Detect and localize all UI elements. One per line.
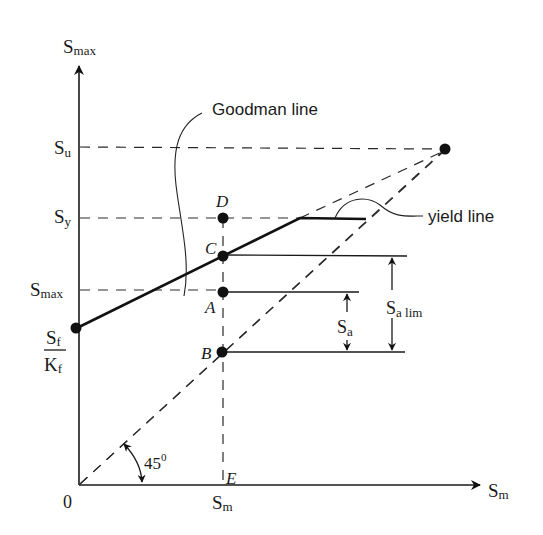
sa-lim-label: Sa lim xyxy=(386,298,422,320)
y-axis-label-sub: max xyxy=(74,43,97,58)
su-label-sub: u xyxy=(65,145,72,160)
point-d xyxy=(218,213,229,224)
point-c xyxy=(218,251,229,262)
smax-label: Smax xyxy=(30,279,63,301)
sy-label-sub: y xyxy=(65,214,72,229)
sm-tick-label-sub: m xyxy=(223,499,233,514)
sm-tick-label-main: S xyxy=(212,492,223,513)
goodman-line xyxy=(77,218,366,328)
angle-arc xyxy=(124,444,142,482)
point-sf-kf xyxy=(71,323,82,334)
point-su-intersection xyxy=(440,144,451,155)
goodman-diagram: Smax Sm 0 D C A B E Su Sy Smax S xyxy=(0,0,543,535)
sy-label: Sy xyxy=(54,206,72,229)
point-a xyxy=(218,287,229,298)
origin-label: 0 xyxy=(63,492,72,512)
label-e: E xyxy=(225,469,237,488)
sf-label-sub: f xyxy=(57,334,62,349)
smax-label-main: S xyxy=(30,279,41,300)
upper-diagonal-line xyxy=(300,151,444,218)
label-c: C xyxy=(205,239,217,258)
y-axis-label-main: S xyxy=(63,36,74,57)
sa-label-sub: a xyxy=(347,324,353,339)
kf-label-main: K xyxy=(44,354,58,375)
point-b xyxy=(217,347,228,358)
c-extension-line xyxy=(223,255,407,256)
su-dashed-line xyxy=(80,147,440,149)
sf-label: Sf xyxy=(46,327,62,349)
angle-label: 450 xyxy=(144,451,167,473)
x-axis-label-sub: m xyxy=(499,487,509,502)
axes xyxy=(79,66,480,485)
angle-value: 45 xyxy=(144,454,161,473)
x-axis-label: Sm xyxy=(488,480,509,502)
sa-label: Sa xyxy=(337,317,353,339)
sa-lim-label-main: S xyxy=(386,298,396,318)
sa-lim-label-sub: a lim xyxy=(396,305,422,320)
sm-tick-label: Sm xyxy=(212,492,233,514)
goodman-line-label: Goodman line xyxy=(212,100,318,119)
angle-degree-sup: 0 xyxy=(161,451,167,463)
su-label: Su xyxy=(54,137,72,160)
y-axis-label: Smax xyxy=(63,36,96,58)
x-axis-label-main: S xyxy=(488,480,499,501)
kf-label: Kf xyxy=(44,354,63,376)
sy-label-main: S xyxy=(54,206,65,227)
label-b: B xyxy=(201,344,212,363)
label-d: D xyxy=(215,192,229,211)
smax-label-sub: max xyxy=(41,286,64,301)
sf-label-main: S xyxy=(46,327,57,348)
label-a: A xyxy=(204,298,216,317)
sa-label-main: S xyxy=(337,317,347,337)
kf-label-sub: f xyxy=(58,361,63,376)
yield-leader-curve xyxy=(335,199,423,218)
yield-line-label: yield line xyxy=(428,207,494,226)
su-label-main: S xyxy=(54,137,65,158)
